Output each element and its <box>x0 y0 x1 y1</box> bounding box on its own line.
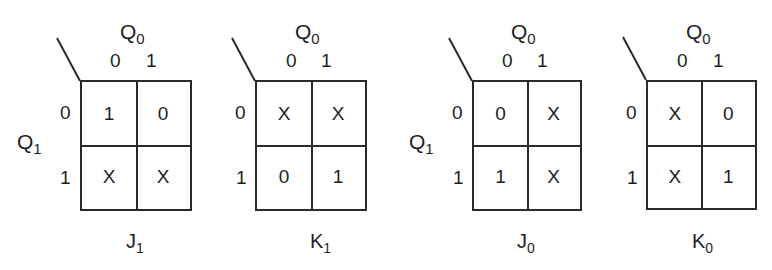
row-label-1: 1 <box>236 167 247 189</box>
kmap-k0: Q0 0 1 0 1 X 0 X 1 K0 <box>580 0 772 270</box>
name-base: J <box>517 230 527 252</box>
name-base: K <box>692 230 705 252</box>
kmap-k1: Q0 0 1 0 1 X X 0 1 K1 <box>200 0 400 270</box>
cell-r0-c0: X <box>257 82 311 146</box>
row-variable-label: Q1 <box>17 130 42 157</box>
name-base: K <box>310 230 323 252</box>
var-base: Q <box>511 20 527 43</box>
name-sub: 0 <box>705 240 713 256</box>
cell-r1-c0: 1 <box>474 146 527 210</box>
map-name: J0 <box>517 230 535 256</box>
var-sub: 1 <box>33 140 41 157</box>
var-sub: 1 <box>425 140 433 157</box>
cell-r1-c1: 1 <box>702 145 756 208</box>
cell-r1-c1: X <box>527 146 580 210</box>
name-sub: 0 <box>527 240 535 256</box>
cell-r0-c0: X <box>648 82 702 145</box>
row-label-1: 1 <box>60 167 71 189</box>
row-label-0: 0 <box>60 102 71 124</box>
var-sub: 0 <box>311 30 319 47</box>
map-name: K0 <box>692 230 713 256</box>
column-label-0: 0 <box>502 50 513 72</box>
cell-r0-c1: 0 <box>702 82 756 145</box>
name-base: J <box>126 230 136 252</box>
cell-r1-c0: 0 <box>257 146 311 210</box>
var-base: Q <box>686 20 702 43</box>
cell-r0-c1: X <box>527 82 580 146</box>
name-sub: 1 <box>136 240 144 256</box>
column-label-1: 1 <box>537 50 548 72</box>
var-sub: 0 <box>527 30 535 47</box>
name-sub: 1 <box>323 240 331 256</box>
kmap-j0: Q0 0 1 Q1 0 1 0 X 1 X J0 <box>380 0 580 270</box>
map-name: J1 <box>126 230 144 256</box>
column-variable-label: Q0 <box>686 20 711 47</box>
var-sub: 0 <box>136 30 144 47</box>
row-label-1: 1 <box>453 167 464 189</box>
var-base: Q <box>409 130 425 153</box>
cell-r1-c0: X <box>648 145 702 208</box>
column-label-1: 1 <box>146 50 157 72</box>
kmap-grid: 0 X 1 X <box>472 80 582 211</box>
row-label-0: 0 <box>235 102 246 124</box>
row-label-0: 0 <box>452 102 463 124</box>
column-variable-label: Q0 <box>120 20 145 47</box>
cell-r1-c1: 1 <box>311 146 365 210</box>
var-base: Q <box>120 20 136 43</box>
column-variable-label: Q0 <box>511 20 536 47</box>
column-label-0: 0 <box>286 50 297 72</box>
column-label-0: 0 <box>110 50 121 72</box>
cell-r0-c0: 0 <box>474 82 527 146</box>
cell-r0-c1: 0 <box>136 82 190 146</box>
cell-r0-c1: X <box>311 82 365 146</box>
row-label-0: 0 <box>626 102 637 124</box>
column-label-1: 1 <box>321 50 332 72</box>
kmap-grid: X X 0 1 <box>255 80 367 211</box>
kmap-grid: 1 0 X X <box>80 80 192 211</box>
column-variable-label: Q0 <box>295 20 320 47</box>
column-label-1: 1 <box>713 50 724 72</box>
kmap-j1: Q0 0 1 Q1 0 1 1 0 X X J1 <box>0 0 200 270</box>
cell-r0-c0: 1 <box>82 82 136 146</box>
kmap-grid: X 0 X 1 <box>646 80 757 210</box>
cell-r1-c1: X <box>136 146 190 210</box>
var-base: Q <box>17 130 33 153</box>
cell-r1-c0: X <box>82 146 136 210</box>
row-variable-label: Q1 <box>409 130 434 157</box>
var-sub: 0 <box>702 30 710 47</box>
row-label-1: 1 <box>627 167 638 189</box>
map-name: K1 <box>310 230 331 256</box>
var-base: Q <box>295 20 311 43</box>
column-label-0: 0 <box>677 50 688 72</box>
